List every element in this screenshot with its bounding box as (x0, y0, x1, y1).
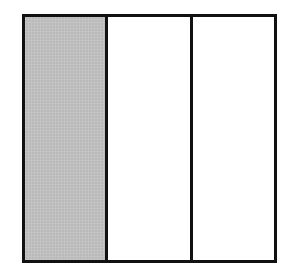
figure-canvas (0, 0, 294, 275)
panel-right-empty (193, 17, 274, 260)
panel-middle-empty (108, 17, 190, 260)
panel-left-shaded (25, 17, 105, 260)
outer-rectangle (22, 14, 277, 263)
